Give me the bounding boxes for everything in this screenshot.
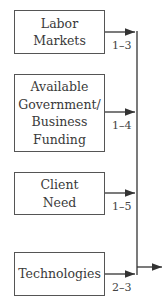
labor-markets-box: Labor Markets bbox=[14, 10, 105, 54]
funding-box: Available Government/ Business Funding bbox=[14, 74, 105, 152]
funding-range: 1–4 bbox=[112, 119, 132, 132]
client-need-box: Client Need bbox=[14, 172, 105, 215]
technologies-range: 2–3 bbox=[112, 281, 132, 294]
client-need-range: 1–5 bbox=[112, 200, 132, 213]
technologies-box: Technologies bbox=[14, 252, 105, 296]
labor-markets-range: 1–3 bbox=[112, 39, 132, 52]
